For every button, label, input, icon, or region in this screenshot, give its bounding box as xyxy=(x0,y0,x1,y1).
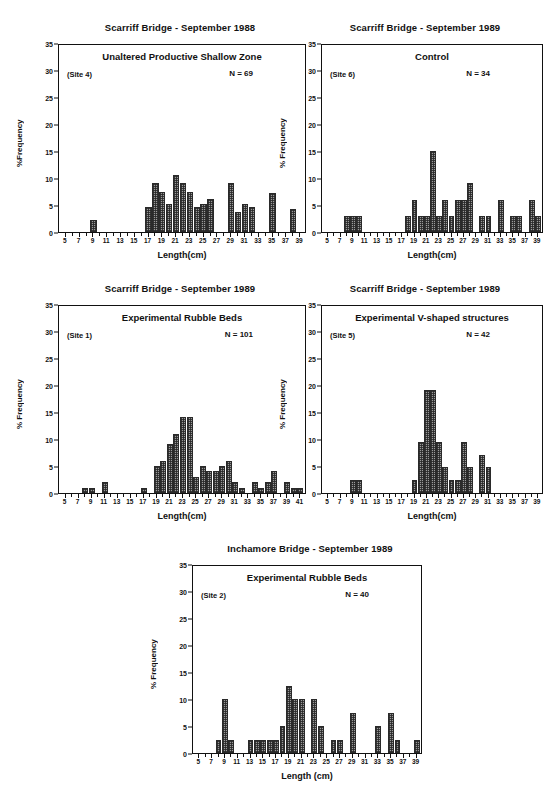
y-tick-label: 5 xyxy=(49,203,53,210)
x-minor-tick-mark xyxy=(346,494,347,497)
histogram-bar xyxy=(529,200,535,232)
bar-series xyxy=(59,45,305,232)
x-tick-label: 7 xyxy=(209,759,213,766)
x-minor-tick-mark xyxy=(432,233,433,236)
x-minor-tick-mark xyxy=(97,494,98,497)
x-tick-label: 33 xyxy=(244,499,251,506)
x-tick-label: 27 xyxy=(459,238,466,245)
x-minor-tick-mark xyxy=(136,494,137,497)
x-minor-tick-mark xyxy=(113,233,114,236)
histogram-bar xyxy=(248,740,254,754)
x-minor-tick-mark xyxy=(494,494,495,497)
x-minor-tick-mark xyxy=(71,494,72,497)
histogram-bar xyxy=(226,461,232,493)
x-tick-label: 15 xyxy=(130,238,137,245)
x-tick-label: 19 xyxy=(410,238,417,245)
x-tick-label: 21 xyxy=(422,499,429,506)
histogram-bar xyxy=(461,200,467,232)
x-minor-tick-mark xyxy=(175,494,176,497)
x-minor-tick-mark xyxy=(481,233,482,236)
y-tick-label: 5 xyxy=(49,464,53,471)
x-minor-tick-mark xyxy=(127,233,128,236)
histogram-bar xyxy=(252,482,258,493)
x-tick-label: 31 xyxy=(231,499,238,506)
histogram-bar xyxy=(145,207,151,232)
y-tick-label: 35 xyxy=(45,302,53,309)
x-minor-tick-mark xyxy=(444,233,445,236)
histogram-bar xyxy=(280,726,286,753)
histogram-bar xyxy=(318,726,324,753)
x-tick-label: 27 xyxy=(213,238,220,245)
x-tick-label: 9 xyxy=(222,759,226,766)
y-tick-label: 0 xyxy=(49,230,53,237)
histogram-bar xyxy=(89,488,95,493)
panel-title: Scarriff Bridge - September 1989 xyxy=(30,283,330,294)
histogram-bar xyxy=(254,740,260,754)
y-tick-label: 30 xyxy=(179,589,187,596)
y-tick-label: 20 xyxy=(45,122,53,129)
histogram-bar xyxy=(292,699,298,753)
x-tick-label: 5 xyxy=(63,238,67,245)
x-tick-label: 31 xyxy=(361,759,368,766)
x-minor-tick-mark xyxy=(457,233,458,236)
x-tick-label: 17 xyxy=(271,759,278,766)
histogram-bar xyxy=(455,200,461,232)
bar-series xyxy=(322,306,542,493)
x-minor-tick-mark xyxy=(202,494,203,497)
x-minor-tick-mark xyxy=(409,754,410,757)
x-tick-label: 35 xyxy=(386,759,393,766)
x-tick-label: 29 xyxy=(348,759,355,766)
histogram-bar xyxy=(228,183,234,232)
histogram-bar xyxy=(436,216,442,232)
x-tick-label: 25 xyxy=(447,238,454,245)
x-minor-tick-mark xyxy=(265,233,266,236)
x-minor-tick-mark xyxy=(162,494,163,497)
x-tick-label: 11 xyxy=(361,238,368,245)
x-tick-label: 23 xyxy=(310,759,317,766)
x-minor-tick-mark xyxy=(251,233,252,236)
x-tick-label: 29 xyxy=(218,499,225,506)
x-axis-label: Length(cm) xyxy=(321,250,543,260)
bar-series xyxy=(59,306,305,493)
x-minor-tick-mark xyxy=(228,494,229,497)
x-tick-label: 21 xyxy=(297,759,304,766)
x-minor-tick-mark xyxy=(182,233,183,236)
y-tick-label: 25 xyxy=(308,95,316,102)
histogram-bar xyxy=(424,216,430,232)
histogram-bar xyxy=(216,740,222,754)
x-tick-label: 19 xyxy=(284,759,291,766)
x-minor-tick-mark xyxy=(269,754,270,757)
histogram-bar xyxy=(430,151,436,232)
y-tick-label: 5 xyxy=(183,724,187,731)
x-minor-tick-mark xyxy=(358,754,359,757)
histogram-bar xyxy=(82,488,88,493)
x-tick-label: 23 xyxy=(435,238,442,245)
plot-area: Control(Site 6)N = 34 xyxy=(321,44,543,233)
plot-area: Experimental Rubble Beds(Site 2)N = 40 xyxy=(192,565,422,754)
histogram-bar xyxy=(141,488,147,493)
x-minor-tick-mark xyxy=(396,754,397,757)
x-tick-label: 17 xyxy=(398,499,405,506)
x-minor-tick-mark xyxy=(469,494,470,497)
y-tick-label: 5 xyxy=(312,464,316,471)
x-minor-tick-mark xyxy=(237,233,238,236)
x-tick-label: 37 xyxy=(521,238,528,245)
x-minor-tick-mark xyxy=(267,494,268,497)
x-tick-label: 9 xyxy=(89,499,93,506)
x-tick-label: 33 xyxy=(374,759,381,766)
histogram-bar xyxy=(194,207,200,232)
x-tick-label: 17 xyxy=(139,499,146,506)
histogram-bar xyxy=(242,204,248,232)
histogram-bar xyxy=(206,471,212,493)
x-minor-tick-mark xyxy=(358,233,359,236)
x-tick-label: 39 xyxy=(533,499,540,506)
y-axis-ticks: 05101520253035 xyxy=(36,305,56,494)
y-tick-label: 5 xyxy=(312,203,316,210)
x-tick-label: 29 xyxy=(472,499,479,506)
x-tick-label: 19 xyxy=(152,499,159,506)
histogram-bar xyxy=(286,686,292,754)
histogram-bar xyxy=(90,220,96,232)
plot-area: Experimental V-shaped structures(Site 5)… xyxy=(321,305,543,494)
x-tick-label: 39 xyxy=(412,759,419,766)
x-tick-label: 7 xyxy=(338,238,342,245)
